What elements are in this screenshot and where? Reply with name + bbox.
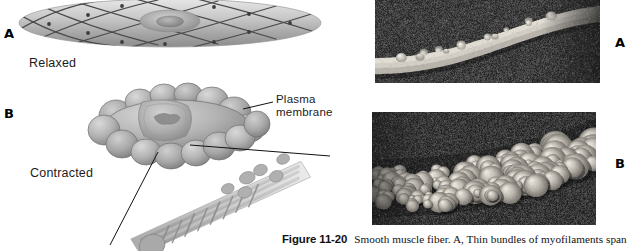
leader-plasma-membrane — [243, 102, 273, 109]
figure-caption: Figure 11-20Smooth muscle fiber. A, Thin… — [282, 233, 644, 245]
micrograph-panel-a — [375, 0, 600, 83]
figure-panel-a-marker: A, — [453, 233, 464, 245]
micrograph-column: A B — [330, 0, 644, 251]
figure-page: A B Relaxed Contracted Plasma membrane — [0, 0, 644, 251]
figure-title: Smooth muscle fiber. — [354, 233, 450, 245]
micrograph-panel-a-letter: A — [615, 35, 625, 50]
micrograph-panel-b-letter: B — [615, 156, 625, 171]
figure-number: Figure 11-20 — [282, 233, 347, 245]
leader-myofilament-right — [190, 145, 330, 156]
illustration-column: A B Relaxed Contracted Plasma membrane — [0, 0, 330, 251]
figure-caption-rest: Thin bundles of myofilaments span — [467, 233, 627, 245]
micrograph-panel-b — [372, 112, 596, 225]
